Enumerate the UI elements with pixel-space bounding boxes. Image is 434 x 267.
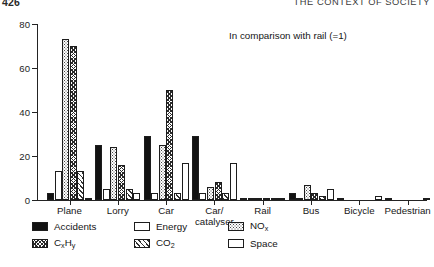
legend-item: Energy — [134, 218, 187, 235]
bar — [110, 147, 117, 200]
y-tick — [32, 200, 37, 201]
bar-group — [337, 24, 382, 200]
bar-group — [240, 24, 285, 200]
y-tick-label: 40 — [19, 107, 30, 118]
y-tick-label: 0 — [25, 195, 30, 206]
bar — [255, 198, 262, 200]
bar-group — [95, 24, 140, 200]
x-tick-label: Bus — [303, 206, 320, 217]
bar — [174, 193, 181, 200]
legend-swatch-space — [228, 239, 244, 248]
bar — [240, 198, 247, 200]
y-tick — [32, 24, 37, 25]
legend-swatch-accidents — [32, 222, 48, 231]
bar — [95, 145, 102, 200]
bar — [151, 193, 158, 200]
bar — [385, 198, 392, 200]
bar — [296, 198, 303, 200]
bar — [207, 187, 214, 200]
bar — [230, 163, 237, 200]
bar — [199, 193, 206, 200]
bar — [133, 193, 140, 200]
legend-column-2: EnergyCO2 — [134, 218, 187, 252]
bar — [319, 196, 326, 200]
bar — [182, 163, 189, 200]
legend-item: CxHy — [32, 235, 96, 252]
bar — [55, 171, 62, 200]
legend-swatch-energy — [134, 222, 150, 231]
legend-item: Accidents — [32, 218, 96, 235]
legend-label: Energy — [156, 221, 187, 232]
bar — [304, 185, 311, 200]
bar — [166, 90, 173, 200]
legend-column-3: NOxSpace — [228, 218, 278, 252]
legend-swatch-cxhy — [32, 239, 48, 248]
y-tick-label: 60 — [19, 63, 30, 74]
legend-item: CO2 — [134, 235, 187, 252]
x-tick-label: Bicycle — [344, 206, 375, 217]
legend-label: NOx — [250, 220, 268, 233]
legend-label: Accidents — [54, 221, 96, 232]
bar — [278, 198, 285, 200]
bar — [192, 136, 199, 200]
legend-label: Space — [250, 238, 278, 249]
bar-group — [385, 24, 430, 200]
bar — [62, 39, 69, 200]
bar — [159, 145, 166, 200]
legend-label: CxHy — [54, 237, 75, 250]
legend-label: CO2 — [156, 237, 175, 250]
bar — [337, 198, 344, 200]
y-tick-label: 20 — [19, 151, 30, 162]
y-tick — [32, 112, 37, 113]
running-head: 426 THE CONTEXT OF SOCIETY — [0, 0, 434, 13]
y-tick — [32, 156, 37, 157]
bar — [271, 198, 278, 200]
bar — [47, 193, 54, 200]
bar-group — [144, 24, 189, 200]
page-folio: 426 — [2, 0, 20, 8]
x-tick-label: Lorry — [107, 206, 129, 217]
bar — [126, 189, 133, 200]
bar-group — [47, 24, 92, 200]
y-tick — [32, 68, 37, 69]
bar — [215, 182, 222, 200]
bar — [85, 198, 92, 200]
bar — [103, 189, 110, 200]
legend-item: NOx — [228, 218, 278, 235]
bar-group — [192, 24, 237, 200]
bar — [423, 198, 430, 200]
x-axis-line — [37, 200, 427, 201]
bar — [222, 193, 229, 200]
bar — [70, 46, 77, 200]
plot-area: 020406080 PlaneLorryCarCar/catalyserRail… — [38, 24, 430, 200]
bar — [248, 198, 255, 200]
y-axis-line — [37, 24, 38, 201]
bar — [311, 193, 318, 200]
x-tick-label: Rail — [254, 206, 271, 217]
bar-group — [289, 24, 334, 200]
running-head-title: THE CONTEXT OF SOCIETY — [294, 0, 430, 7]
legend-swatch-nox — [228, 222, 244, 231]
bar — [375, 196, 382, 200]
bar — [144, 136, 151, 200]
bar — [118, 165, 125, 200]
x-tick-label: Pedestrian — [384, 206, 430, 217]
y-tick-label: 80 — [19, 19, 30, 30]
bar — [263, 198, 270, 200]
x-tick-label: Plane — [57, 206, 82, 217]
x-tick-label: Car — [158, 206, 174, 217]
bar — [327, 189, 334, 200]
legend-swatch-co2 — [134, 239, 150, 248]
bar — [289, 193, 296, 200]
legend-column-1: AccidentsCxHy — [32, 218, 96, 252]
bar — [77, 171, 84, 200]
legend-item: Space — [228, 235, 278, 252]
